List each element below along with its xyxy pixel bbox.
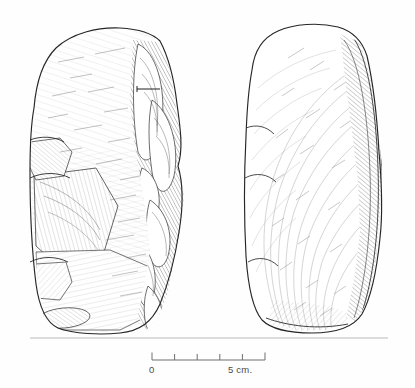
scale-bar: 0 5 cm. — [140, 348, 285, 380]
figure-plate: 0 5 cm. — [0, 0, 415, 388]
scale-bar-graphic — [140, 348, 285, 366]
artefact-illustration — [0, 0, 415, 388]
right-artefact-view — [240, 18, 395, 343]
scale-label-min: 0 — [149, 364, 154, 376]
scale-label-max: 5 cm. — [228, 364, 252, 376]
left-artefact-view — [20, 20, 195, 345]
